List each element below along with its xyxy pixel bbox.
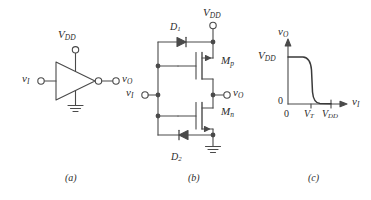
- pmos-arrow: [206, 56, 211, 61]
- supply-label-b: VDD: [203, 7, 221, 19]
- diode2-label: D2: [171, 152, 182, 163]
- output-label-b: vO: [233, 87, 243, 99]
- inverter-symbol-a: [38, 47, 119, 112]
- output-terminal-a: [113, 78, 119, 84]
- y-tick-label-zero: 0: [278, 96, 283, 106]
- y-axis-arrow: [285, 39, 291, 46]
- inverter-bubble: [95, 78, 101, 84]
- x-tick-label-vt: VT: [304, 109, 314, 120]
- input-terminal-b: [142, 92, 148, 98]
- transfer-curve: [288, 57, 331, 104]
- figure-artwork: [0, 0, 371, 200]
- x-tick-label-vdd: VDD: [322, 109, 338, 120]
- cmos-inverter-circuit-b: [142, 22, 230, 152]
- input-label-b: vI: [126, 87, 133, 99]
- transfer-characteristic-plot: [285, 39, 347, 108]
- nmos-arrow: [205, 127, 210, 132]
- input-terminal-a: [38, 78, 44, 84]
- caption-b: (b): [188, 172, 200, 183]
- input-node-b: [156, 93, 161, 98]
- figure-container: VDD vI vO (a) VDD D1 D2 Mp Mn vI vO (b) …: [0, 0, 371, 200]
- diode1-label: D1: [170, 22, 181, 33]
- y-axis-label-c: vO: [278, 26, 288, 38]
- output-label-a: vO: [122, 73, 132, 85]
- caption-c: (c): [308, 172, 319, 183]
- y-tick-label-vdd: VDD: [258, 50, 276, 62]
- x-tick-label-zero: 0: [284, 109, 289, 119]
- input-label-a: vI: [22, 73, 29, 85]
- x-axis-arrow: [340, 101, 347, 107]
- diode2-triangle: [179, 131, 188, 140]
- pmos-label: Mp: [221, 55, 234, 67]
- supply-label-a: VDD: [58, 29, 76, 41]
- caption-a: (a): [65, 172, 77, 183]
- supply-terminal-b: [210, 22, 216, 28]
- diode1-triangle: [177, 38, 186, 47]
- nmos-label: Mn: [221, 106, 234, 118]
- x-axis-label-c: vI: [352, 96, 359, 108]
- output-terminal-b: [224, 92, 230, 98]
- supply-terminal-a: [72, 47, 78, 53]
